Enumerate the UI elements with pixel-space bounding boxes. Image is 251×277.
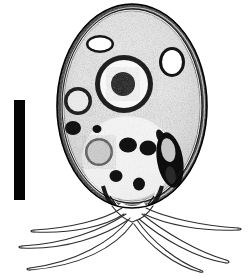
granule-5 — [110, 170, 123, 182]
filament-left-mid — [19, 214, 128, 248]
filament-left-upper — [31, 208, 124, 232]
nucleus — [95, 55, 153, 113]
granule-6 — [133, 178, 145, 191]
nucleolus-texture — [111, 72, 135, 96]
basal-filament-group — [19, 206, 241, 272]
vesicle-mid-left-granular — [85, 138, 113, 166]
granule-3 — [119, 138, 137, 153]
granule-2 — [93, 125, 102, 133]
scale-bar — [14, 100, 25, 200]
cell-body — [57, 4, 207, 210]
organism-illustration — [0, 0, 251, 277]
vacuole-upper-right — [159, 47, 185, 77]
vacuole-upper-left — [86, 35, 114, 53]
vesicle-left-small — [64, 87, 92, 115]
granule-1 — [65, 121, 81, 135]
micrograph-figure — [0, 0, 251, 277]
granule-4 — [140, 141, 157, 156]
